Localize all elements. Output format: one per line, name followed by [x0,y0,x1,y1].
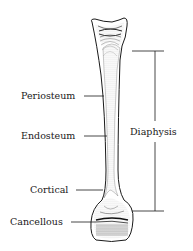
bone-diagram: Periosteum Endosteum Cortical Cancellous… [0,0,193,251]
cortical-label: Cortical [30,185,68,195]
periosteum-label: Periosteum [21,91,75,101]
diaphysis-label: Diaphysis [130,127,177,137]
endosteum-label: Endosteum [21,131,75,141]
cancellous-label: Cancellous [10,217,63,227]
